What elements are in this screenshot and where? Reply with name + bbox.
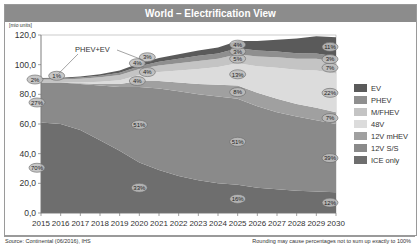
svg-text:13%: 13% (232, 72, 245, 78)
percent-label: 7% (322, 114, 338, 123)
percent-label: 4% (129, 76, 145, 85)
percent-label: 16% (230, 194, 246, 203)
legend-item: PHEV (354, 94, 408, 106)
legend-swatch (354, 156, 367, 164)
svg-text:51%: 51% (232, 139, 245, 145)
percent-label: 3% (139, 53, 155, 62)
legend-label: PHEV (371, 96, 391, 105)
x-tick-label: 2030 (327, 219, 345, 228)
x-tick-label: 2022 (170, 219, 188, 228)
percent-label: 4% (139, 68, 155, 77)
legend-item: M/FHEV (354, 106, 408, 118)
x-tick-label: 2016 (52, 219, 70, 228)
rounding-note: Rounding may cause percentages not to su… (252, 238, 411, 244)
legend: EVPHEVM/FHEV48V12V mHEV12V S/SICE only (354, 82, 408, 166)
legend-item: 48V (354, 118, 408, 130)
y-tick-label: 0,0 (24, 208, 36, 218)
svg-text:27%: 27% (31, 100, 44, 106)
percent-label: 7% (322, 63, 338, 72)
x-tick-label: 2021 (150, 219, 168, 228)
svg-text:16%: 16% (232, 196, 245, 202)
percent-label: 27% (29, 98, 45, 107)
svg-text:3%: 3% (143, 54, 152, 60)
svg-text:39%: 39% (324, 155, 337, 161)
legend-swatch (354, 84, 367, 92)
y-tick-label: 20,0 (19, 178, 36, 188)
x-tick-label: 2025 (229, 219, 247, 228)
footer-divider (4, 236, 415, 237)
legend-label: ICE only (371, 156, 399, 165)
svg-text:51%: 51% (133, 122, 146, 128)
percent-label: 4% (230, 40, 246, 49)
percent-label: 13% (230, 70, 246, 79)
phev-ev-callout: PHEV+EV (75, 45, 110, 54)
legend-label: 12V S/S (371, 144, 399, 153)
legend-swatch (354, 96, 367, 104)
legend-label: EV (371, 84, 381, 93)
svg-text:12%: 12% (324, 200, 337, 206)
svg-text:4%: 4% (133, 78, 142, 84)
percent-label: 2% (27, 75, 43, 84)
x-tick-label: 2024 (209, 219, 227, 228)
source-note: Source: Continental (06/2016), IHS (5, 238, 91, 244)
svg-text:70%: 70% (31, 165, 44, 171)
percent-label: 12% (322, 198, 338, 207)
legend-swatch (354, 120, 367, 128)
percent-label: 1% (49, 71, 65, 80)
y-tick-label: 80,0 (19, 89, 36, 99)
legend-label: 48V (371, 120, 384, 129)
percent-label: 70% (29, 163, 45, 172)
x-tick-label: 2026 (248, 219, 266, 228)
svg-text:33%: 33% (133, 185, 146, 191)
x-tick-label: 2027 (268, 219, 286, 228)
svg-text:3%: 3% (326, 56, 335, 62)
legend-item: 12V mHEV (354, 130, 408, 142)
svg-text:7%: 7% (326, 65, 335, 71)
svg-text:2%: 2% (31, 77, 40, 83)
x-tick-label: 2023 (189, 219, 207, 228)
percent-label: 8% (230, 88, 246, 97)
y-tick-label: 100,0 (15, 60, 37, 70)
legend-label: 12V mHEV (371, 132, 408, 141)
y-tick-label: 120,0 (15, 30, 37, 40)
svg-text:8%: 8% (233, 89, 242, 95)
legend-item: 12V S/S (354, 142, 408, 154)
percent-label: 51% (230, 137, 246, 146)
percent-label: 39% (322, 154, 338, 163)
x-tick-label: 2020 (130, 219, 148, 228)
svg-text:22%: 22% (324, 90, 337, 96)
x-tick-label: 2028 (288, 219, 306, 228)
svg-text:4%: 4% (143, 69, 152, 75)
percent-label: 3% (322, 55, 338, 64)
y-tick-label: 60,0 (19, 119, 36, 129)
legend-item: EV (354, 82, 408, 94)
legend-item: ICE only (354, 154, 408, 166)
legend-label: M/FHEV (371, 108, 399, 117)
svg-text:1%: 1% (52, 73, 61, 79)
svg-text:11%: 11% (324, 44, 336, 50)
x-tick-label: 2029 (307, 219, 325, 228)
svg-text:7%: 7% (326, 115, 335, 121)
x-tick-label: 2018 (91, 219, 109, 228)
x-tick-label: 2017 (71, 219, 89, 228)
svg-text:5%: 5% (233, 56, 242, 62)
svg-text:4%: 4% (133, 60, 142, 66)
x-tick-label: 2015 (32, 219, 50, 228)
svg-text:4%: 4% (233, 42, 242, 48)
percent-label: 33% (131, 183, 147, 192)
y-tick-label: 40,0 (19, 149, 36, 159)
legend-swatch (354, 108, 367, 116)
legend-swatch (354, 132, 367, 140)
percent-label: 51% (131, 120, 147, 129)
percent-label: 11% (322, 42, 338, 51)
legend-swatch (354, 144, 367, 152)
x-tick-label: 2019 (111, 219, 129, 228)
percent-label: 22% (322, 88, 338, 97)
